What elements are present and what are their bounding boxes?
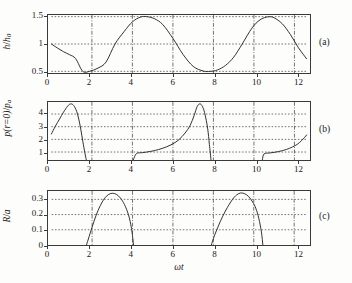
panel-c: 00.10.20.3024681012R/a(c)ωt bbox=[0, 0, 352, 283]
x-tick-label: 8 bbox=[201, 249, 229, 259]
y-axis-label: R/a bbox=[2, 209, 12, 223]
x-tick-label: 0 bbox=[33, 249, 61, 259]
y-tick-mark bbox=[44, 199, 47, 200]
y-tick-label: 0.2 bbox=[15, 208, 43, 218]
y-tick-mark bbox=[44, 215, 47, 216]
y-tick-mark bbox=[44, 230, 47, 231]
figure-container: 0.511.5024681012h/h0(a)1234024681012p(r=… bbox=[0, 0, 352, 283]
plot-frame bbox=[47, 190, 311, 246]
x-tick-mark bbox=[89, 246, 90, 249]
y-tick-label: 0.3 bbox=[15, 193, 43, 203]
data-curve bbox=[211, 193, 263, 245]
x-tick-label: 4 bbox=[117, 249, 145, 259]
x-tick-mark bbox=[47, 246, 48, 249]
x-axis-label: ωt bbox=[159, 262, 199, 272]
x-tick-mark bbox=[173, 246, 174, 249]
x-tick-label: 10 bbox=[243, 249, 271, 259]
x-tick-mark bbox=[298, 246, 299, 249]
plot-canvas bbox=[48, 191, 310, 245]
x-tick-label: 12 bbox=[284, 249, 312, 259]
x-tick-label: 2 bbox=[75, 249, 103, 259]
x-tick-mark bbox=[215, 246, 216, 249]
x-tick-label: 6 bbox=[159, 249, 187, 259]
y-tick-label: 0.1 bbox=[15, 224, 43, 234]
data-curve bbox=[86, 193, 133, 245]
x-tick-mark bbox=[131, 246, 132, 249]
panel-tag: (c) bbox=[319, 211, 330, 221]
x-tick-mark bbox=[257, 246, 258, 249]
